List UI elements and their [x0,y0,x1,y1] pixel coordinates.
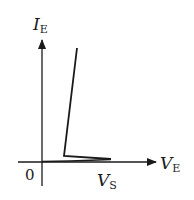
origin-label: 0 [25,166,35,184]
vs-marker-label: VS [97,170,117,192]
characteristic-curve [64,48,111,159]
curve-lower-branch [42,160,111,162]
x-axis-label: VE [160,153,180,175]
y-axis-label: IE [32,14,48,36]
ie-ve-diagram: IE VE 0 VS [0,0,194,200]
